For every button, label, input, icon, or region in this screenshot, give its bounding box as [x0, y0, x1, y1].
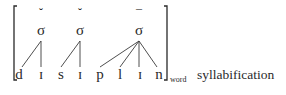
segment-n: n — [155, 66, 163, 82]
right-bracket — [164, 6, 167, 80]
bracket-subscript: word — [170, 75, 186, 84]
syllable-1-node: σ — [37, 22, 45, 38]
syllable-1-weight-mark: ˘ — [39, 6, 43, 20]
syllable-2-node: σ — [76, 22, 84, 38]
syllabification-diagram: ˘ ˘ ¯ σ σ σ d ɪ s ɪ p l ɪ n word syllabi… — [0, 0, 286, 95]
link-s3-l — [120, 41, 139, 67]
syllable-3-node: σ — [135, 22, 143, 38]
segment-s: s — [58, 66, 64, 82]
segment-ɪ-1: ɪ — [39, 66, 43, 82]
segment-p: p — [96, 66, 104, 82]
link-s3-p — [100, 41, 139, 67]
segment-l: l — [118, 66, 122, 82]
caption-label: syllabification — [197, 67, 274, 82]
segment-ɪ-3: ɪ — [138, 66, 142, 82]
link-s2-s — [61, 41, 80, 67]
segment-ɪ-2: ɪ — [78, 66, 82, 82]
association-lines — [22, 41, 157, 67]
link-s3-n — [139, 41, 157, 67]
syllable-3-weight-mark: ¯ — [135, 8, 143, 22]
syllable-2-weight-mark: ˘ — [78, 6, 82, 20]
link-s1-d — [22, 41, 41, 67]
segment-d: d — [15, 66, 23, 82]
